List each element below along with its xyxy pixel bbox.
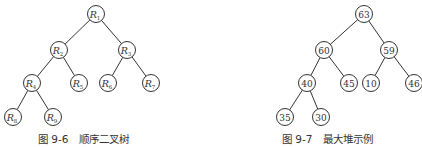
tree-node-n30: 30 bbox=[313, 109, 330, 126]
svg-text:60: 60 bbox=[318, 46, 330, 56]
tree-edge bbox=[375, 57, 385, 75]
sequential-binary-tree: R1R2R3R4R5R6R7R8R9 bbox=[5, 6, 160, 126]
tree-edge bbox=[17, 90, 28, 109]
figure-caption-max-heap: 图 9-7 最大堆示例 bbox=[282, 131, 373, 146]
tree-edge bbox=[132, 57, 146, 76]
tree-node-n45: 45 bbox=[341, 75, 358, 92]
tree-edge bbox=[330, 20, 357, 45]
tree-node-n46: 46 bbox=[406, 75, 422, 92]
tree-edge bbox=[290, 90, 303, 110]
tree-node-R4: R4 bbox=[24, 75, 41, 92]
tree-edge bbox=[394, 57, 409, 76]
tree-node-n40: 40 bbox=[299, 75, 316, 92]
svg-text:30: 30 bbox=[315, 113, 327, 123]
tree-node-n60: 60 bbox=[316, 42, 333, 59]
tree-edge bbox=[65, 20, 90, 44]
svg-text:59: 59 bbox=[383, 46, 395, 56]
tree-edge bbox=[329, 57, 344, 76]
svg-text:46: 46 bbox=[408, 79, 420, 89]
tree-node-n63: 63 bbox=[356, 6, 373, 23]
tree-node-n10: 10 bbox=[363, 75, 380, 92]
tree-node-R2: R2 bbox=[51, 42, 68, 59]
tree-edge bbox=[102, 20, 122, 43]
svg-text:35: 35 bbox=[279, 113, 291, 123]
tree-node-R5: R5 bbox=[71, 75, 88, 92]
tree-node-R7: R7 bbox=[143, 75, 160, 92]
figure-caption-sequential-binary-tree: 图 9-6 顺序二叉树 bbox=[38, 131, 129, 146]
tree-edge bbox=[310, 91, 318, 109]
svg-text:40: 40 bbox=[301, 79, 313, 89]
tree-node-R8: R8 bbox=[5, 109, 22, 126]
tree-edge bbox=[112, 57, 123, 75]
tree-edge bbox=[36, 90, 48, 110]
tree-node-R9: R9 bbox=[45, 109, 62, 126]
tree-edge bbox=[37, 57, 53, 77]
tree-edge bbox=[63, 57, 74, 75]
svg-text:63: 63 bbox=[358, 10, 370, 20]
tree-edge bbox=[369, 21, 384, 43]
tree-node-R6: R6 bbox=[100, 75, 117, 92]
tree-node-R3: R3 bbox=[119, 42, 136, 59]
svg-text:10: 10 bbox=[365, 79, 377, 89]
tree-node-n59: 59 bbox=[381, 42, 398, 59]
tree-edge bbox=[311, 58, 320, 76]
svg-text:45: 45 bbox=[343, 79, 355, 89]
diagram-canvas: R1R2R3R4R5R6R7R8R9636059404510463530 bbox=[0, 0, 422, 147]
max-heap-tree: 636059404510463530 bbox=[277, 6, 422, 126]
tree-node-n35: 35 bbox=[277, 109, 294, 126]
tree-node-R1: R1 bbox=[88, 6, 105, 23]
